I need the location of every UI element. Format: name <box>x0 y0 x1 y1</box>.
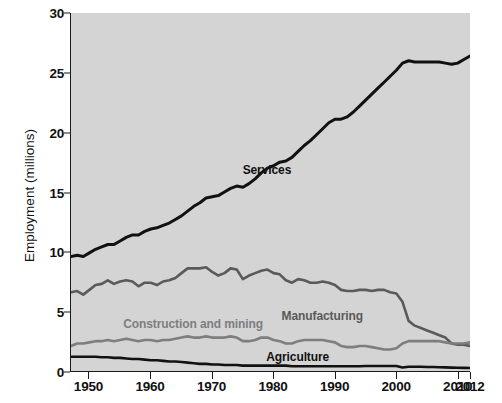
x-tick-label: 1990 <box>320 379 349 394</box>
series-line-services <box>71 56 470 256</box>
x-tick-mark <box>212 372 213 379</box>
y-tick-label: 15 <box>49 185 64 200</box>
y-tick-label: 25 <box>49 65 64 80</box>
x-tick-label: 2000 <box>382 379 411 394</box>
series-line-manufacturing <box>71 267 470 346</box>
x-tick-label: 1970 <box>197 379 226 394</box>
x-tick-mark <box>470 372 471 379</box>
x-tick-mark <box>88 372 89 379</box>
x-tick-mark <box>396 372 397 379</box>
series-label-manufacturing: Manufacturing <box>282 309 363 323</box>
series-label-agriculture: Agriculture <box>266 350 329 364</box>
y-tick-label: 0 <box>57 365 64 380</box>
series-label-services: Services <box>243 163 292 177</box>
x-tick-mark <box>150 372 151 379</box>
series-label-construction-and-mining: Construction and mining <box>123 317 263 331</box>
x-tick-mark <box>458 372 459 379</box>
x-tick-mark <box>273 372 274 379</box>
y-tick-label: 5 <box>57 305 64 320</box>
y-axis-tick-labels: 051015202530 <box>34 0 64 403</box>
x-tick-label: 1960 <box>135 379 164 394</box>
x-tick-label: 2012 <box>455 379 484 394</box>
y-tick-label: 20 <box>49 125 64 140</box>
series-line-construction-and-mining <box>71 336 470 349</box>
y-tick-label: 30 <box>49 6 64 21</box>
y-tick-label: 10 <box>49 245 64 260</box>
x-tick-label: 1950 <box>74 379 103 394</box>
x-tick-label: 1980 <box>258 379 287 394</box>
chart-figure: Employment (millions) 051015202530 Servi… <box>0 0 502 403</box>
x-tick-mark <box>335 372 336 379</box>
